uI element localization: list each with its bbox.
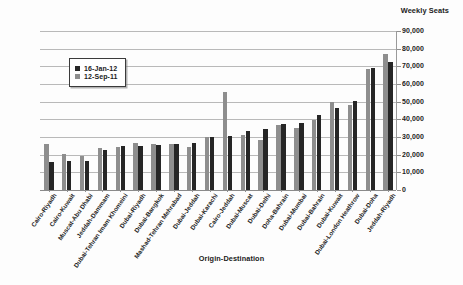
bar xyxy=(335,108,339,190)
x-axis-tick-mark xyxy=(192,190,193,192)
y-axis-tick-label: 30,000 xyxy=(402,133,424,140)
x-axis-tick-mark xyxy=(335,190,336,192)
x-axis-tick-mark xyxy=(138,190,139,192)
bar-group xyxy=(312,31,321,190)
y-axis-tick-label: 10,000 xyxy=(402,168,424,175)
bar xyxy=(116,147,120,190)
y-axis-tick-mark xyxy=(397,137,401,138)
bar-group xyxy=(223,31,232,190)
bar xyxy=(312,120,316,190)
bar xyxy=(169,144,173,190)
bar-group xyxy=(98,31,107,190)
bar xyxy=(246,131,250,190)
legend-swatch-icon xyxy=(75,74,80,79)
x-axis-tick-mark xyxy=(317,190,318,192)
x-axis-tick-mark xyxy=(85,190,86,192)
y-axis-tick-mark xyxy=(397,172,401,173)
x-axis-tick-mark xyxy=(299,190,300,192)
x-axis-tick-mark xyxy=(102,190,103,192)
bar-group xyxy=(330,31,339,190)
bar xyxy=(371,68,375,190)
bars-layer xyxy=(40,31,397,190)
x-axis-tick-mark xyxy=(67,190,68,192)
y-axis-tick-label: 70,000 xyxy=(402,62,424,69)
y-axis-tick-mark xyxy=(397,102,401,103)
bar xyxy=(187,147,191,190)
bar-group xyxy=(116,31,125,190)
x-axis-tick-mark xyxy=(388,190,389,192)
chart-legend: 16-Jan-12 12-Sep-11 xyxy=(69,58,126,87)
x-axis-tick-mark xyxy=(227,190,228,192)
y-axis-tick-label: 80,000 xyxy=(402,45,424,52)
bar xyxy=(62,154,66,190)
legend-item-16-jan-12: 16-Jan-12 xyxy=(75,65,118,72)
x-axis-tick-mark xyxy=(281,190,282,192)
bar xyxy=(85,161,89,191)
x-axis-tick-mark xyxy=(370,190,371,192)
bar-group xyxy=(348,31,357,190)
bar-group xyxy=(294,31,303,190)
bar xyxy=(263,129,267,190)
bar-group xyxy=(169,31,178,190)
bar-group xyxy=(258,31,267,190)
x-axis-tick-mark xyxy=(352,190,353,192)
y-axis-tick-mark xyxy=(397,84,401,85)
x-axis-line xyxy=(40,190,396,191)
y-axis-tick-label: 20,000 xyxy=(402,151,424,158)
x-axis-tick-mark xyxy=(245,190,246,192)
y-axis-tick-label: 60,000 xyxy=(402,80,424,87)
bar xyxy=(44,144,48,190)
x-axis-tick-mark xyxy=(156,190,157,192)
bar xyxy=(98,148,102,190)
bar xyxy=(80,156,84,190)
bar-group xyxy=(151,31,160,190)
bar-group xyxy=(80,31,89,190)
bar xyxy=(174,144,178,190)
chart-title: Weekly Seats xyxy=(401,6,449,15)
y-axis-tick-mark xyxy=(397,49,401,50)
y-axis-tick-mark xyxy=(397,31,401,32)
bar xyxy=(192,143,196,190)
legend-item-12-sep-11: 12-Sep-11 xyxy=(75,73,118,80)
x-axis-tick-mark xyxy=(263,190,264,192)
bar xyxy=(388,62,392,190)
bar xyxy=(121,146,125,190)
bar-group xyxy=(276,31,285,190)
bar xyxy=(299,123,303,190)
bar xyxy=(383,54,387,190)
bar-group xyxy=(205,31,214,190)
y-axis-tick-label: 40,000 xyxy=(402,115,424,122)
bar-group xyxy=(241,31,250,190)
bar xyxy=(67,161,71,190)
bar-group xyxy=(62,31,71,190)
bar xyxy=(241,135,245,190)
bar-group xyxy=(366,31,375,190)
bar xyxy=(156,145,160,190)
y-axis-tick-mark xyxy=(397,119,401,120)
bar-group xyxy=(187,31,196,190)
bar xyxy=(276,125,280,190)
x-axis-tick-mark xyxy=(210,190,211,192)
bar xyxy=(205,137,209,190)
y-axis-tick-label: 0 xyxy=(402,186,406,193)
bar-group xyxy=(133,31,142,190)
weekly-seats-bar-chart: Weekly Seats 16-Jan-12 12-Sep-11 Cairo-R… xyxy=(0,0,463,285)
legend-label: 16-Jan-12 xyxy=(84,65,117,72)
bar xyxy=(228,136,232,190)
bar xyxy=(210,137,214,190)
y-axis-tick-mark xyxy=(397,190,401,191)
x-axis-title: Origin-Destination xyxy=(0,254,463,263)
bar xyxy=(281,124,285,190)
y-axis-tick-label: 50,000 xyxy=(402,98,424,105)
legend-swatch-icon xyxy=(75,66,80,71)
y-axis-tick-mark xyxy=(397,66,401,67)
bar xyxy=(133,143,137,190)
bar xyxy=(49,162,53,190)
bar xyxy=(366,69,370,190)
y-axis-tick-mark xyxy=(397,155,401,156)
bar xyxy=(330,102,334,190)
bar xyxy=(317,115,321,190)
bar xyxy=(258,140,262,190)
legend-label: 12-Sep-11 xyxy=(84,73,118,80)
bar xyxy=(348,105,352,190)
